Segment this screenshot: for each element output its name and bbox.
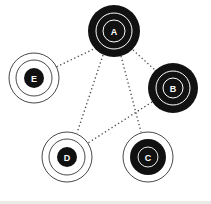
node-label-b: B xyxy=(170,84,177,94)
node-a[interactable]: A xyxy=(88,5,140,57)
node-b[interactable]: B xyxy=(148,63,198,113)
node-d[interactable]: D xyxy=(42,132,92,182)
node-label-e: E xyxy=(31,74,37,84)
edge-a-e xyxy=(54,46,100,68)
edge-a-c xyxy=(121,56,141,132)
network-diagram: A B C D E xyxy=(0,0,211,204)
node-label-a: A xyxy=(111,27,118,37)
node-e[interactable]: E xyxy=(9,53,59,103)
bottom-divider xyxy=(0,201,211,204)
node-label-d: D xyxy=(64,153,71,163)
edge-a-b xyxy=(133,50,155,70)
edge-a-d xyxy=(77,55,103,133)
node-c[interactable]: C xyxy=(123,132,173,182)
node-label-c: C xyxy=(145,153,152,163)
edges xyxy=(54,46,155,143)
